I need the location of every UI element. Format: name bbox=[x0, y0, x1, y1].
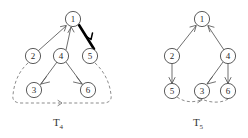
node-right-6[interactable]: 6 bbox=[220, 83, 235, 98]
graph-figure-canvas: 1 2 4 5 3 6 T4 bbox=[0, 0, 248, 138]
node-left-2[interactable]: 2 bbox=[25, 48, 40, 63]
node-label-r3: 3 bbox=[200, 86, 205, 96]
caption-right-subscript: 5 bbox=[200, 123, 204, 131]
node-right-1[interactable]: 1 bbox=[194, 11, 209, 26]
node-left-3[interactable]: 3 bbox=[26, 82, 41, 97]
node-label-6: 6 bbox=[86, 85, 91, 95]
figure-root: 1 2 4 5 3 6 T4 bbox=[0, 0, 248, 138]
node-left-1[interactable]: 1 bbox=[65, 11, 80, 26]
arrow-head-4-to-6 bbox=[74, 77, 83, 85]
node-label-r2: 2 bbox=[170, 51, 175, 61]
node-label-5: 5 bbox=[88, 51, 93, 61]
node-label-2: 2 bbox=[31, 51, 36, 61]
arrow-head-r-4-to-3 bbox=[207, 77, 216, 85]
node-left-6[interactable]: 6 bbox=[80, 82, 95, 97]
edge-r-4-to-1 bbox=[208, 26, 224, 50]
node-label-3: 3 bbox=[32, 85, 37, 95]
node-label-r5: 5 bbox=[170, 86, 175, 96]
node-label-1: 1 bbox=[71, 14, 76, 24]
edge-4-to-1 bbox=[66, 27, 71, 50]
node-label-r4: 4 bbox=[226, 51, 231, 61]
edge-r-dashed-6-to-3 bbox=[204, 99, 228, 102]
node-left-4[interactable]: 4 bbox=[53, 48, 68, 63]
node-right-5[interactable]: 5 bbox=[164, 83, 179, 98]
node-label-4: 4 bbox=[59, 51, 64, 61]
edge-r-2-to-1 bbox=[177, 26, 196, 50]
caption-right: T5 bbox=[193, 116, 204, 131]
node-right-4[interactable]: 4 bbox=[220, 48, 235, 63]
edge-2-to-1 bbox=[38, 26, 66, 51]
arrow-head-4-to-1 bbox=[68, 27, 74, 33]
arrow-head-4-to-3 bbox=[41, 77, 50, 85]
diagram-right-t5: 1 2 4 5 3 6 T5 bbox=[164, 11, 235, 131]
caption-left-subscript: 4 bbox=[60, 123, 64, 131]
node-right-3[interactable]: 3 bbox=[194, 83, 209, 98]
node-label-r6: 6 bbox=[226, 86, 231, 96]
node-label-r1: 1 bbox=[200, 14, 205, 24]
node-left-5[interactable]: 5 bbox=[82, 48, 97, 63]
diagram-left-t4: 1 2 4 5 3 6 T4 bbox=[13, 11, 111, 131]
node-right-2[interactable]: 2 bbox=[164, 48, 179, 63]
caption-left: T4 bbox=[53, 116, 64, 131]
